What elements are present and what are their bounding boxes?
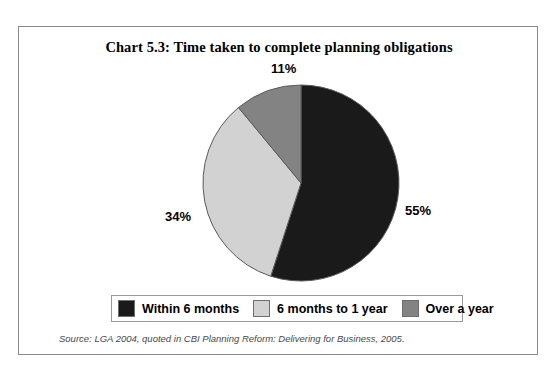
pie-label-within-6-months: 55% bbox=[405, 203, 431, 218]
legend-item-over-a-year: Over a year bbox=[402, 300, 494, 317]
legend-swatch-icon-6-months-to-1-year bbox=[253, 300, 270, 317]
source-note: Source: LGA 2004, quoted in CBI Planning… bbox=[59, 333, 405, 344]
legend-swatch-icon-within-6-months bbox=[118, 300, 135, 317]
legend-label-6-months-to-1-year: 6 months to 1 year bbox=[277, 302, 387, 316]
chart-legend: Within 6 months 6 months to 1 year Over … bbox=[111, 295, 463, 322]
pie-plot-area: 55% 34% 11% bbox=[19, 57, 539, 287]
page-title: Chart 5.3: Time taken to complete planni… bbox=[19, 39, 539, 56]
legend-swatch-icon-over-a-year bbox=[402, 300, 419, 317]
chart-figure-frame: Chart 5.3: Time taken to complete planni… bbox=[18, 26, 538, 355]
legend-label-over-a-year: Over a year bbox=[426, 302, 494, 316]
legend-item-within-6-months: Within 6 months bbox=[118, 300, 239, 317]
legend-item-6-months-to-1-year: 6 months to 1 year bbox=[253, 300, 387, 317]
pie-svg bbox=[201, 83, 401, 283]
legend-label-within-6-months: Within 6 months bbox=[142, 302, 239, 316]
pie-label-6-months-to-1-year: 34% bbox=[165, 209, 191, 224]
pie-label-over-a-year: 11% bbox=[271, 61, 296, 76]
pie-chart bbox=[201, 83, 401, 283]
